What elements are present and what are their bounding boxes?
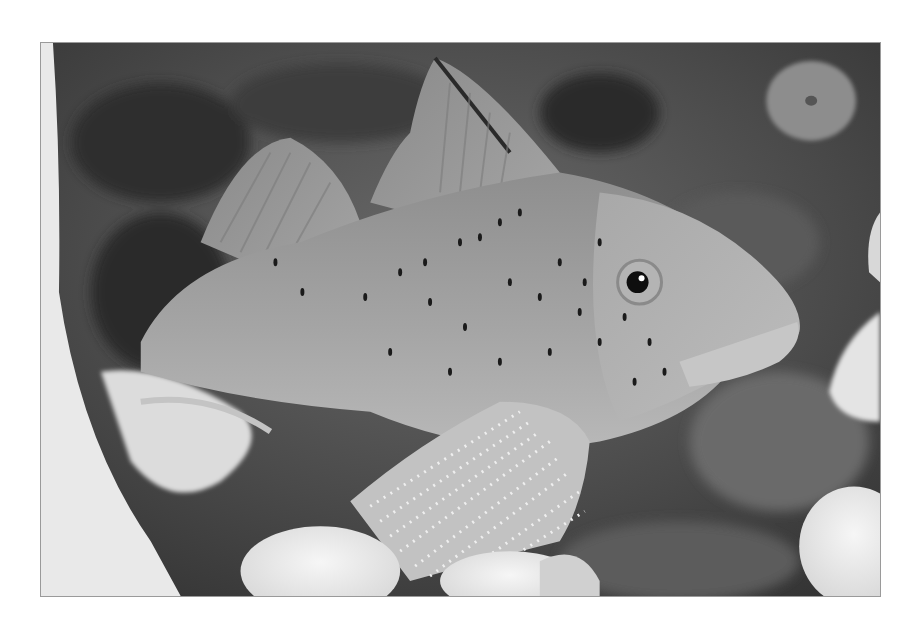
fish-photo-illustration	[41, 43, 880, 596]
photo: Spotted fish resting among sea anemones …	[40, 42, 881, 597]
